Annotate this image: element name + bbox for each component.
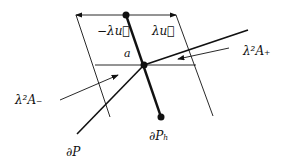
top-dot	[123, 12, 130, 19]
label-a: a	[124, 47, 131, 60]
label-lambda2-A-plus: λ²A₊	[242, 44, 270, 58]
dP-lower-line	[77, 65, 144, 134]
diagram-svg: −λu⃗ λu⃗ a λ²A₊ λ²A₋ ∂P ∂Pₕ	[0, 0, 291, 161]
label-lambda2-A-minus: λ²A₋	[14, 93, 42, 107]
label-neg-lambda-u: −λu⃗	[97, 24, 130, 38]
label-dP: ∂P	[66, 145, 81, 159]
A-plus-arrow	[178, 48, 229, 59]
label-lambda-u: λu⃗	[151, 24, 175, 38]
label-dPh: ∂Pₕ	[149, 129, 168, 143]
diagram: −λu⃗ λu⃗ a λ²A₊ λ²A₋ ∂P ∂Pₕ	[0, 0, 291, 161]
A-minus-arrow	[60, 75, 118, 100]
center-dot	[141, 62, 148, 69]
bottom-dot	[158, 114, 165, 121]
right-slanted-line	[176, 15, 213, 116]
